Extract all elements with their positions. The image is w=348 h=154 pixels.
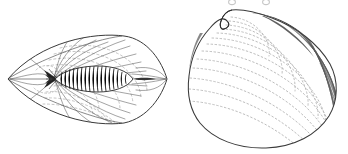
plate-canvas [0, 0, 348, 154]
illustration-plate [0, 0, 348, 154]
